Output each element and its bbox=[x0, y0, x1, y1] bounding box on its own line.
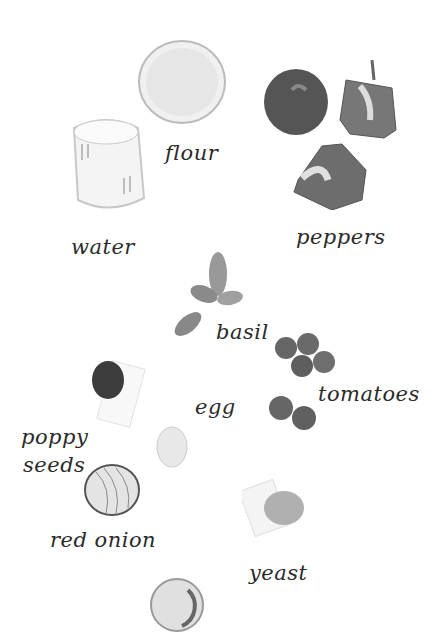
egg-label: egg bbox=[195, 397, 236, 418]
flour-label: flour bbox=[165, 143, 218, 164]
basil-label: basil bbox=[216, 322, 269, 343]
poppy-label-line1: poppy bbox=[21, 427, 88, 448]
peppers-label: peppers bbox=[296, 227, 386, 248]
poppy-seeds-image bbox=[84, 358, 150, 430]
water-jug-image bbox=[66, 108, 152, 224]
red-onion-label: red onion bbox=[50, 530, 156, 551]
poppy-label-line2: seeds bbox=[23, 455, 85, 476]
egg-image bbox=[154, 424, 190, 470]
red-onion-image bbox=[82, 458, 142, 518]
water-label: water bbox=[71, 237, 135, 258]
yeast-image bbox=[242, 478, 312, 542]
peppers-image bbox=[262, 60, 402, 210]
yeast-label: yeast bbox=[249, 563, 308, 584]
oil-dish-image bbox=[148, 576, 206, 634]
tomatoes-label: tomatoes bbox=[318, 384, 420, 405]
ingredients-page: flour water peppers basil tomatoes egg p… bbox=[0, 0, 433, 639]
